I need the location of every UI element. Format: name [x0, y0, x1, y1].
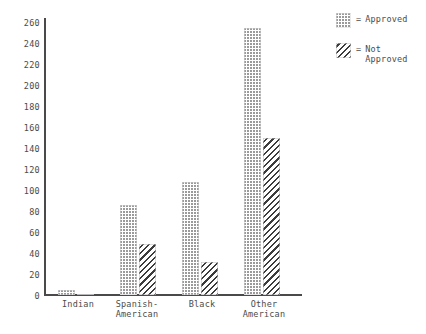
- chart-legend: = Approved = Not Approved: [336, 12, 422, 78]
- x-label-other-american: Other American: [228, 299, 300, 319]
- y-tick-label: 0: [6, 292, 40, 301]
- legend-swatch-dotted-icon: [336, 13, 351, 28]
- legend-entry-not-approved: = Not Approved: [336, 42, 422, 64]
- legend-entry-approved: = Approved: [336, 12, 422, 28]
- y-tick-label: 240: [6, 40, 40, 49]
- y-tick-label: 20: [6, 271, 40, 280]
- bar-indian-approved: [58, 290, 75, 295]
- y-tick-label: 220: [6, 61, 40, 70]
- bar-spanish-american-approved: [120, 205, 137, 295]
- y-tick-label: 140: [6, 145, 40, 154]
- bar-other-american-not-approved: [263, 138, 280, 295]
- y-tick-label: 180: [6, 103, 40, 112]
- legend-label-approved: Approved: [365, 14, 408, 24]
- y-tick-label: 40: [6, 250, 40, 259]
- bar-other-american-approved: [244, 28, 261, 295]
- y-tick-label: 100: [6, 187, 40, 196]
- bar-chart: 260 240 220 200 180 160 140 120 100 80 6…: [0, 0, 426, 334]
- bar-indian-not-approved: [77, 294, 94, 295]
- y-tick-label: 120: [6, 166, 40, 175]
- bar-groups: [46, 18, 304, 295]
- bar-black-not-approved: [201, 262, 218, 295]
- y-tick-label: 260: [6, 19, 40, 28]
- legend-swatch-hatch-icon: [336, 43, 351, 58]
- legend-separator: =: [356, 44, 361, 54]
- y-tick-label: 200: [6, 82, 40, 91]
- bar-black-approved: [182, 182, 199, 295]
- bar-spanish-american-not-approved: [139, 244, 156, 295]
- x-axis-category-labels: Indian Spanish- American Black Other Ame…: [44, 299, 306, 333]
- y-axis-tick-labels: 260 240 220 200 180 160 140 120 100 80 6…: [0, 0, 40, 334]
- x-label-spanish-american: Spanish- American: [102, 299, 172, 319]
- y-tick-label: 160: [6, 124, 40, 133]
- y-tick-label: 80: [6, 208, 40, 217]
- x-label-black: Black: [170, 299, 234, 309]
- legend-label-not-approved: Not Approved: [365, 44, 408, 64]
- legend-separator: =: [356, 14, 361, 24]
- y-tick-label: 60: [6, 229, 40, 238]
